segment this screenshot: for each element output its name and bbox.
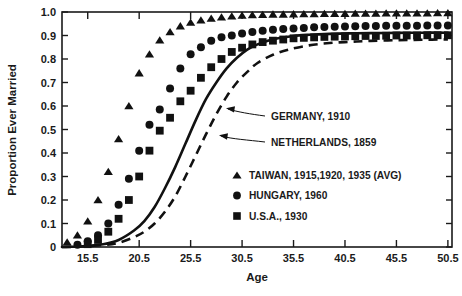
data-point-circle-25 [331,23,339,31]
y-tick-label-5: 0.5 [41,124,56,136]
data-point-square-1 [94,236,102,244]
data-point-square-20 [290,34,298,42]
data-point-square-10 [187,87,195,95]
y-tick-label-3: 0.3 [41,171,56,183]
y-tick-label-2: 0.2 [41,194,56,206]
data-point-circle-21 [290,24,298,32]
y-axis-title: Proportion Ever Married [6,64,18,196]
data-point-square-6 [146,147,154,155]
data-point-square-32 [413,32,421,40]
data-point-triangle-27 [340,10,349,17]
x-tick-label-0: 15.5 [77,252,98,264]
data-point-triangle-16 [227,12,236,19]
data-point-triangle-29 [361,9,370,16]
legend-item-hungary: HUNGARY, 1960 [233,190,328,201]
data-point-square-34 [434,31,442,39]
data-point-square-12 [207,63,215,71]
data-point-square-16 [248,41,256,49]
data-point-square-5 [135,173,143,181]
data-point-triangle-35 [423,9,432,16]
data-point-circle-33 [413,22,421,30]
data-point-triangle-31 [382,9,391,16]
data-point-circle-0 [73,241,81,249]
data-point-circle-36 [444,21,452,29]
data-point-square-9 [176,97,184,105]
data-point-circle-20 [279,25,287,33]
data-point-square-17 [259,38,267,46]
data-point-triangle-34 [412,9,421,16]
data-point-circle-5 [125,175,133,183]
data-point-circle-24 [320,23,328,31]
data-point-triangle-4 [104,168,113,175]
data-point-square-18 [269,37,277,45]
data-point-circle-32 [403,22,411,30]
data-point-circle-26 [341,23,349,31]
data-point-square-2 [104,228,112,236]
data-point-square-24 [331,33,339,41]
data-point-triangle-13 [196,16,205,23]
data-point-circle-11 [187,50,195,58]
data-point-circle-29 [372,22,380,30]
data-point-square-27 [362,32,370,40]
data-point-circle-3 [104,220,112,228]
y-tick-label-0: 0 [50,241,56,253]
x-tick-label-2: 25.5 [180,252,201,264]
annotation-germany: GERMANY, 1910 [271,111,351,122]
data-point-triangle-25 [320,10,329,17]
legend: TAIWAN, 1915,1920, 1935 (AVG) HUNGARY, 1… [232,170,401,222]
data-point-circle-30 [382,22,390,30]
data-point-triangle-12 [186,19,195,26]
data-point-triangle-26 [330,10,339,17]
data-point-square-15 [238,44,246,52]
data-point-square-22 [310,33,318,41]
data-point-triangle-0 [63,238,72,245]
data-point-square-26 [351,32,359,40]
data-point-triangle-23 [299,10,308,17]
x-axis-ticks: 15.520.525.530.535.540.545.550.5 [77,12,459,264]
data-point-triangle-33 [402,9,411,16]
data-point-circle-27 [351,22,359,30]
data-point-square-21 [300,34,308,42]
data-point-square-29 [382,32,390,40]
data-point-square-33 [423,31,431,39]
y-tick-label-8: 0.8 [41,53,56,65]
data-point-triangle-10 [165,28,174,35]
data-point-square-11 [197,74,205,82]
data-point-square-23 [321,33,329,41]
x-tick-label-7: 50.5 [437,252,458,264]
data-point-triangle-8 [145,50,154,57]
legend-label-usa: U.S.A., 1930 [249,211,308,222]
data-point-square-30 [393,32,401,40]
data-point-circle-14 [218,33,226,41]
data-point-square-35 [444,31,452,39]
data-point-triangle-3 [93,196,102,203]
y-tick-label-10: 1.0 [41,6,56,18]
data-point-circle-10 [176,64,184,72]
square-icon [233,212,241,220]
data-point-circle-15 [228,32,236,40]
data-point-circle-6 [135,147,143,155]
y-tick-label-6: 0.6 [41,100,56,112]
data-point-triangle-2 [83,217,92,224]
circle-icon [233,192,241,200]
x-tick-label-6: 45.5 [386,252,407,264]
data-point-circle-4 [115,201,123,209]
y-tick-label-9: 0.9 [41,30,56,42]
x-tick-label-3: 30.5 [231,252,252,264]
germany-arrow-head [226,106,235,112]
data-point-square-8 [166,114,174,122]
x-axis-title: Age [246,271,268,283]
data-point-triangle-7 [135,69,144,76]
data-point-triangle-1 [73,231,82,238]
data-point-square-28 [372,32,380,40]
triangle-icon [232,171,241,178]
data-point-circle-12 [197,43,205,51]
data-point-triangle-15 [217,13,226,20]
y-tick-label-4: 0.4 [41,147,57,159]
data-point-square-25 [341,33,349,41]
data-point-circle-34 [423,21,431,29]
legend-item-taiwan: TAIWAN, 1915,1920, 1935 (AVG) [232,170,401,181]
data-point-circle-17 [248,28,256,36]
legend-label-hungary: HUNGARY, 1960 [249,190,328,201]
legend-item-usa: U.S.A., 1930 [233,211,307,222]
